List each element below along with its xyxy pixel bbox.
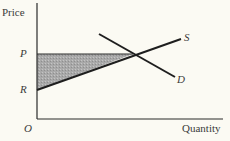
price-level-label: P bbox=[20, 48, 27, 59]
supply-label: S bbox=[184, 32, 190, 43]
supply-demand-diagram bbox=[0, 0, 230, 141]
x-axis-label: Quantity bbox=[182, 123, 221, 134]
origin-label: O bbox=[24, 123, 32, 134]
intercept-label: R bbox=[20, 84, 27, 95]
y-axis-label: Price bbox=[2, 7, 25, 18]
demand-label: D bbox=[177, 74, 185, 85]
